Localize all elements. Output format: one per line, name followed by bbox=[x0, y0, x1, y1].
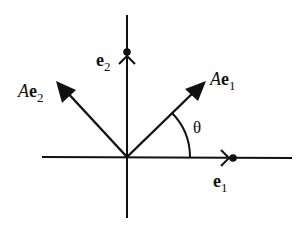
e1-dot bbox=[229, 154, 237, 162]
e2-dot bbox=[123, 48, 131, 56]
theta-label: θ bbox=[193, 118, 201, 137]
horizontal-axis bbox=[42, 157, 292, 158]
background bbox=[0, 0, 307, 231]
rotation-diagram: θ e1 e2 Ae1 Ae2 bbox=[0, 0, 307, 231]
